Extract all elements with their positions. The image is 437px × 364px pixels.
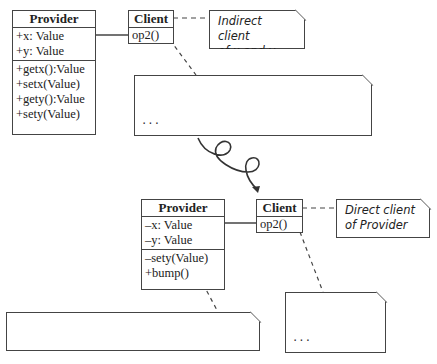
note-direct-client: Direct client of Provider — [336, 199, 430, 238]
note-text: Indirect client — [218, 14, 296, 44]
client-class-top: Client op2() — [128, 10, 174, 44]
attributes: +x: Value +y: Value — [13, 28, 95, 60]
operation: –sety(Value) — [145, 251, 221, 266]
operation: +getx():Value — [16, 62, 92, 77]
note-bump: ... provider.bump() ... — [285, 292, 386, 353]
attribute: +y: Value — [16, 44, 92, 59]
operations: +getx():Value +setx(Value) +gety():Value… — [13, 60, 95, 123]
provider-class-top: Provider +x: Value +y: Value +getx():Val… — [12, 10, 96, 135]
attribute: –x: Value — [145, 218, 221, 233]
code-line: ... — [292, 329, 379, 345]
class-name: Client — [257, 200, 302, 217]
note-text: Direct client — [345, 203, 421, 218]
note-code-top: ... provider.sety(provider.x + provider.… — [134, 75, 372, 136]
operation: op2() — [257, 217, 302, 232]
operation: +gety():Value — [16, 92, 92, 107]
class-name: Client — [129, 11, 173, 28]
class-name: Provider — [142, 200, 224, 217]
operation: +setx(Value) — [16, 77, 92, 92]
attribute: –y: Value — [145, 233, 221, 248]
client-class-bottom: Client op2() — [256, 199, 303, 233]
attributes: –x: Value –y: Value — [142, 217, 224, 249]
attribute: +x: Value — [16, 29, 92, 44]
note-indirect-client: Indirect client of x and y — [209, 10, 305, 49]
operation: +bump() — [145, 266, 221, 281]
operations: –sety(Value) +bump() — [142, 249, 224, 282]
curly-arrow-icon — [198, 138, 259, 190]
operation: +sety(Value) — [16, 107, 92, 122]
class-name: Provider — [13, 11, 95, 28]
arrowhead-icon — [252, 186, 260, 193]
note-text: of Provider — [345, 218, 421, 233]
provider-class-bottom: Provider –x: Value –y: Value –sety(Value… — [141, 199, 225, 290]
code-line: ... — [141, 112, 365, 128]
note-link-bump — [300, 232, 323, 292]
operation: op2() — [129, 28, 173, 43]
note-sety: provider.sety(provider.x + provider.y) — [6, 312, 260, 351]
note-link-code-top — [170, 40, 196, 75]
